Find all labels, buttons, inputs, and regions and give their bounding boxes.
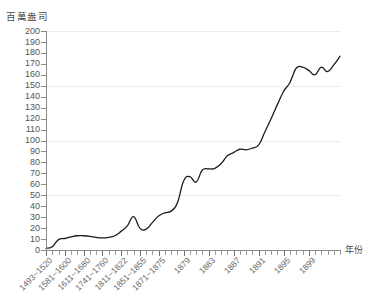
y-axis-label-60: 60 <box>14 180 40 189</box>
y-axis-tick-60 <box>41 184 47 185</box>
y-axis-label-90: 90 <box>14 147 40 156</box>
y-axis-tick-130 <box>41 108 47 109</box>
x-axis-tick-11 <box>115 251 116 255</box>
y-axis-tick-40 <box>41 206 47 207</box>
y-axis-label-20: 20 <box>14 224 40 233</box>
x-axis-tick-36 <box>271 251 272 255</box>
x-axis-tick-43 <box>315 251 316 255</box>
y-axis-label-80: 80 <box>14 158 40 167</box>
x-axis-tick-14 <box>134 251 135 255</box>
x-axis-tick-23 <box>190 251 191 255</box>
y-axis-tick-180 <box>41 53 47 54</box>
x-axis-tick-28 <box>221 251 222 255</box>
x-axis-tick-39 <box>290 251 291 255</box>
y-axis-label-200: 200 <box>14 27 40 36</box>
x-axis-tick-32 <box>246 251 247 255</box>
x-axis-tick-1 <box>52 251 53 255</box>
chart-container: 百萬盎司 20019018017016015014013012011010090… <box>0 0 369 303</box>
y-axis-tick-50 <box>41 195 47 196</box>
x-axis-tick-29 <box>227 251 228 255</box>
y-axis-tick-100 <box>41 141 47 142</box>
x-axis-tick-20 <box>171 251 172 255</box>
x-axis-tick-5 <box>77 251 78 255</box>
y-axis-label-110: 110 <box>14 125 40 134</box>
x-axis-tick-40 <box>296 251 297 255</box>
y-axis-tick-90 <box>41 151 47 152</box>
x-axis-tick-45 <box>328 251 329 255</box>
y-axis-label-190: 190 <box>14 38 40 47</box>
x-axis-tick-19 <box>165 251 166 255</box>
x-axis-tick-2 <box>59 251 60 255</box>
y-axis-tick-80 <box>41 162 47 163</box>
x-axis-tick-13 <box>127 251 128 255</box>
x-axis-tick-46 <box>334 251 335 255</box>
y-axis-tick-70 <box>41 173 47 174</box>
y-axis-tick-160 <box>41 75 47 76</box>
x-axis-caption-label: 年份 <box>345 243 363 256</box>
y-axis-label-180: 180 <box>14 48 40 57</box>
y-axis-tick-20 <box>41 228 47 229</box>
y-axis-tick-120 <box>41 119 47 120</box>
series-svg <box>46 31 340 250</box>
y-axis-tick-170 <box>41 64 47 65</box>
x-axis-tick-21 <box>177 251 178 255</box>
y-axis-label-160: 160 <box>14 70 40 79</box>
x-axis-tick-16 <box>146 251 147 255</box>
x-axis-tick-41 <box>303 251 304 255</box>
x-axis-tick-27 <box>215 251 216 255</box>
x-axis-tick-4 <box>71 251 72 255</box>
y-axis-label-120: 120 <box>14 114 40 123</box>
y-axis-label-0: 0 <box>14 246 40 255</box>
y-axis-label-150: 150 <box>14 81 40 90</box>
x-axis-tick-8 <box>96 251 97 255</box>
y-axis-tick-110 <box>41 130 47 131</box>
y-axis-tick-190 <box>41 42 47 43</box>
y-axis-label-50: 50 <box>14 191 40 200</box>
x-axis-tick-24 <box>196 251 197 255</box>
y-axis-label-10: 10 <box>14 235 40 244</box>
x-axis-tick-31 <box>240 251 241 255</box>
y-axis-unit-label: 百萬盎司 <box>6 9 48 23</box>
x-axis-tick-33 <box>252 251 253 255</box>
x-axis-tick-7 <box>90 251 91 255</box>
y-axis-tick-140 <box>41 97 47 98</box>
y-axis-label-130: 130 <box>14 103 40 112</box>
x-axis-tick-25 <box>202 251 203 255</box>
y-axis-tick-150 <box>41 86 47 87</box>
y-axis-tick-10 <box>41 239 47 240</box>
y-axis-label-100: 100 <box>14 136 40 145</box>
x-axis-tick-44 <box>321 251 322 255</box>
silver-production-line <box>46 56 340 248</box>
y-axis-label-170: 170 <box>14 59 40 68</box>
y-axis-label-30: 30 <box>14 213 40 222</box>
x-axis-tick-10 <box>109 251 110 255</box>
x-axis-tick-47 <box>340 251 341 255</box>
y-axis-tick-30 <box>41 217 47 218</box>
x-axis-tick-17 <box>152 251 153 255</box>
x-axis-tick-37 <box>277 251 278 255</box>
plot-area <box>46 31 340 250</box>
y-axis-label-70: 70 <box>14 169 40 178</box>
y-axis-label-140: 140 <box>14 92 40 101</box>
x-axis-tick-35 <box>265 251 266 255</box>
y-axis-label-40: 40 <box>14 202 40 211</box>
y-axis-tick-200 <box>41 31 47 32</box>
